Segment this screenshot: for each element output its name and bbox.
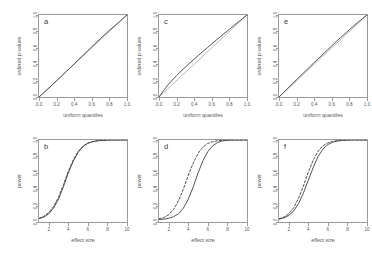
- series-power-solid: [39, 140, 127, 219]
- y-tick-mark: [36, 156, 39, 157]
- x-tick-mark: [328, 223, 329, 226]
- y-tick-mark: [36, 189, 39, 190]
- x-tick-mark: [247, 98, 248, 101]
- y-tick-mark: [276, 81, 279, 82]
- x-tick-label: 4: [301, 227, 315, 232]
- x-tick-label: 0.8: [222, 102, 236, 107]
- x-tick-mark: [177, 98, 178, 101]
- x-tick-mark: [92, 98, 93, 101]
- x-tick-label: 0.2: [170, 102, 184, 107]
- x-tick-mark: [208, 223, 209, 226]
- y-tick-mark: [276, 15, 279, 16]
- y-tick-mark: [276, 156, 279, 157]
- y-tick-mark: [276, 173, 279, 174]
- curve-layer-a: [39, 15, 127, 97]
- series-reference-diagonal: [159, 15, 247, 97]
- curve-layer-f: [279, 140, 367, 222]
- plot-area-b: [38, 139, 128, 223]
- x-tick-mark: [57, 98, 58, 101]
- panel-letter-c: c: [164, 17, 168, 26]
- y-axis-label: power: [136, 139, 142, 223]
- x-tick-mark: [39, 98, 40, 101]
- x-axis-label: uniform quantiles: [158, 112, 248, 118]
- x-tick-label: 1.0: [360, 102, 372, 107]
- curve-layer-d: [159, 140, 247, 222]
- y-tick-mark: [36, 48, 39, 49]
- x-tick-label: 8: [100, 227, 114, 232]
- y-tick-mark: [36, 140, 39, 141]
- x-tick-label: 2: [162, 227, 176, 232]
- x-tick-label: 0.6: [205, 102, 219, 107]
- series-power-solid: [159, 140, 247, 220]
- panel-letter-e: e: [284, 17, 288, 26]
- x-tick-label: 0.6: [85, 102, 99, 107]
- x-tick-mark: [169, 223, 170, 226]
- x-tick-label: 6: [201, 227, 215, 232]
- x-tick-mark: [194, 98, 195, 101]
- plot-area-c: [158, 14, 248, 98]
- x-tick-label: 0.8: [102, 102, 116, 107]
- x-tick-label: 0.6: [325, 102, 339, 107]
- x-tick-mark: [314, 98, 315, 101]
- y-tick-mark: [276, 31, 279, 32]
- x-tick-label: 1.0: [240, 102, 254, 107]
- y-tick-mark: [36, 97, 39, 98]
- x-tick-label: 0.8: [342, 102, 356, 107]
- x-tick-label: 8: [220, 227, 234, 232]
- series-reference-diagonal: [279, 15, 367, 97]
- y-tick-mark: [36, 173, 39, 174]
- x-tick-mark: [127, 223, 128, 226]
- series-power-dashed: [159, 140, 247, 219]
- curve-layer-e: [279, 15, 367, 97]
- plot-area-f: [278, 139, 368, 223]
- panel-letter-b: b: [44, 142, 48, 151]
- x-tick-label: 8: [340, 227, 354, 232]
- x-axis-label: effect size: [38, 237, 128, 243]
- x-tick-mark: [227, 223, 228, 226]
- x-axis-label: effect size: [158, 237, 248, 243]
- x-tick-label: 1.0: [120, 102, 134, 107]
- x-tick-mark: [74, 98, 75, 101]
- y-tick-mark: [36, 15, 39, 16]
- y-tick-mark: [276, 64, 279, 65]
- y-axis-label: ordered p-values: [16, 14, 22, 98]
- y-tick-mark: [156, 140, 159, 141]
- x-axis-label: effect size: [278, 237, 368, 243]
- x-tick-mark: [247, 223, 248, 226]
- series-power-solid: [279, 140, 367, 219]
- y-tick-mark: [156, 156, 159, 157]
- plot-area-a: [38, 14, 128, 98]
- plot-area-d: [158, 139, 248, 223]
- y-tick-mark: [156, 31, 159, 32]
- y-tick-mark: [156, 173, 159, 174]
- y-tick-mark: [36, 81, 39, 82]
- x-tick-mark: [229, 98, 230, 101]
- x-tick-mark: [332, 98, 333, 101]
- x-tick-label: 10: [360, 227, 372, 232]
- y-tick-mark: [36, 31, 39, 32]
- x-tick-mark: [159, 98, 160, 101]
- x-tick-mark: [367, 223, 368, 226]
- y-tick-mark: [156, 189, 159, 190]
- x-tick-mark: [127, 98, 128, 101]
- y-tick-mark: [156, 222, 159, 223]
- x-tick-mark: [349, 98, 350, 101]
- x-tick-label: 0.2: [50, 102, 64, 107]
- y-tick-mark: [276, 222, 279, 223]
- x-tick-label: 10: [240, 227, 254, 232]
- y-axis-label: power: [256, 139, 262, 223]
- y-tick-mark: [36, 64, 39, 65]
- panel-letter-d: d: [164, 142, 168, 151]
- x-tick-mark: [49, 223, 50, 226]
- x-tick-mark: [212, 98, 213, 101]
- x-tick-label: 6: [81, 227, 95, 232]
- y-tick-mark: [156, 48, 159, 49]
- x-tick-label: 2: [42, 227, 56, 232]
- x-axis-label: uniform quantiles: [278, 112, 368, 118]
- x-tick-mark: [107, 223, 108, 226]
- y-tick-mark: [276, 189, 279, 190]
- x-tick-mark: [367, 98, 368, 101]
- x-tick-mark: [297, 98, 298, 101]
- x-tick-label: 0.2: [290, 102, 304, 107]
- x-tick-label: 0.4: [187, 102, 201, 107]
